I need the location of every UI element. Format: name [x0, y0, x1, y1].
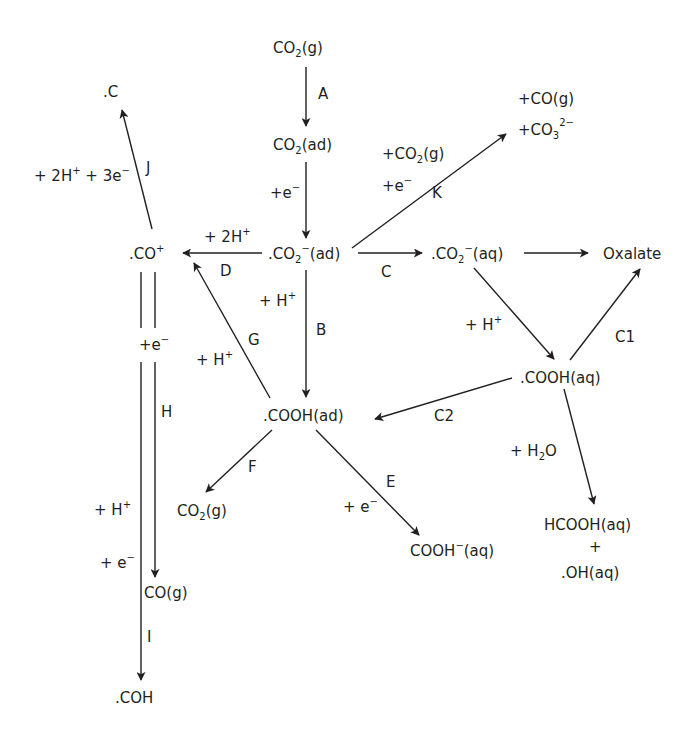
label-I: I — [147, 628, 151, 646]
label-C2: C2 — [434, 407, 454, 425]
label-J: J — [145, 159, 150, 177]
node-carbon: .C — [103, 83, 118, 101]
node-co2-gas-f: CO2(g) — [177, 502, 227, 522]
reagent-j: + 2H+ + 3e− — [34, 165, 130, 185]
reagent-k-electron: +e− — [382, 175, 412, 195]
label-E: E — [386, 473, 395, 491]
reagent-d: + 2H+ — [204, 226, 251, 246]
node-plus-sign: + — [589, 538, 602, 556]
node-k-product-co: +CO(g) — [518, 90, 574, 108]
label-D: D — [220, 262, 232, 280]
node-cooh-anion: COOH−(aq) — [410, 540, 494, 560]
arrow-E — [316, 430, 419, 535]
node-co-cation: .CO+ — [129, 243, 164, 263]
arrow-F — [206, 430, 272, 492]
reagent-k-co2: +CO2(g) — [382, 145, 444, 165]
label-C1: C1 — [615, 328, 635, 346]
node-k-product-carbonate: +CO32− — [518, 117, 574, 141]
label-F: F — [248, 458, 257, 476]
node-co-gas: CO(g) — [144, 584, 188, 602]
node-co2-gas-top: CO2(g) — [273, 39, 323, 59]
label-K: K — [432, 184, 443, 202]
reagent-b: + H+ — [259, 290, 296, 310]
reagent-e-electron: + e− — [343, 496, 378, 516]
arrow-C1 — [570, 269, 640, 360]
reagent-electron-a: +e− — [270, 182, 300, 202]
reagent-h-electron: +e− — [139, 334, 169, 354]
arrow-protonation-aq — [474, 268, 554, 359]
reagent-i-electron: + e− — [100, 552, 135, 572]
label-H: H — [161, 403, 172, 421]
reagent-water: + H2O — [510, 442, 557, 462]
label-B: B — [316, 321, 326, 339]
reagent-g: + H+ — [196, 349, 233, 369]
node-oxalate: Oxalate — [603, 245, 661, 263]
node-co2-radical-aqueous: .CO2−(aq) — [431, 243, 503, 265]
label-A: A — [318, 85, 329, 103]
reaction-pathway-diagram: CO2(g) CO2(ad) .CO2−(ad) .CO2−(aq) Oxala… — [0, 0, 700, 732]
label-C: C — [381, 263, 391, 281]
node-coh: .COH — [115, 689, 153, 707]
label-G: G — [248, 331, 260, 349]
node-hydroxyl: .OH(aq) — [561, 564, 619, 582]
reagent-aq-protonation: + H+ — [465, 314, 502, 334]
node-cooh-adsorbed: .COOH(ad) — [263, 407, 344, 425]
node-co2-adsorbed: CO2(ad) — [273, 136, 332, 156]
node-formic-acid: HCOOH(aq) — [544, 516, 631, 534]
arrow-hydrolysis — [564, 389, 594, 504]
node-co2-radical-adsorbed: .CO2−(ad) — [268, 243, 340, 265]
reagent-i-proton: + H+ — [94, 499, 131, 519]
node-cooh-aqueous: .COOH(aq) — [520, 369, 601, 387]
